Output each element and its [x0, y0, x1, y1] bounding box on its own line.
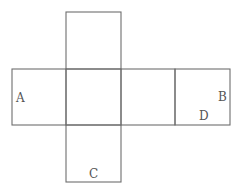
face-right-middle [121, 69, 175, 125]
face-center [66, 69, 121, 125]
label-a: A [15, 91, 25, 105]
cube-net-diagram: A B C D [0, 0, 240, 193]
face-top [66, 12, 121, 69]
label-c: C [89, 167, 98, 181]
label-d: D [199, 109, 209, 123]
label-b: B [218, 90, 227, 104]
